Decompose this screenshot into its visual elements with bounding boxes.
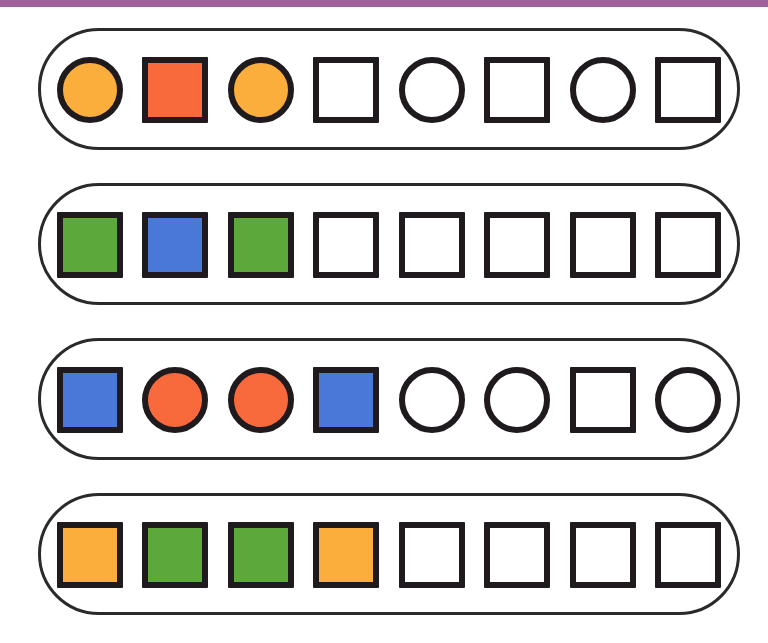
green-square-icon [228,522,294,588]
empty-square-icon [313,57,379,123]
empty-square-icon [655,212,721,278]
green-square-icon [57,212,123,278]
green-square-icon [142,522,208,588]
red-square-icon [142,57,208,123]
empty-square-icon [399,212,465,278]
orange-circle-icon [228,57,294,123]
empty-square-icon [570,367,636,433]
red-circle-icon [142,367,208,433]
empty-square-icon [570,522,636,588]
empty-square-icon [655,57,721,123]
empty-circle-icon [399,367,465,433]
empty-circle-icon [655,367,721,433]
empty-circle-icon [484,367,550,433]
pattern-row-2 [38,183,740,305]
empty-square-icon [655,522,721,588]
orange-square-icon [313,522,379,588]
empty-circle-icon [399,57,465,123]
pattern-row-1 [38,28,740,150]
empty-square-icon [313,212,379,278]
top-color-bar [0,0,768,7]
green-square-icon [228,212,294,278]
blue-square-icon [313,367,379,433]
blue-square-icon [142,212,208,278]
orange-circle-icon [57,57,123,123]
pattern-row-3 [38,338,740,460]
empty-square-icon [484,57,550,123]
empty-square-icon [484,212,550,278]
empty-square-icon [570,212,636,278]
empty-square-icon [399,522,465,588]
empty-circle-icon [570,57,636,123]
blue-square-icon [57,367,123,433]
orange-square-icon [57,522,123,588]
pattern-row-4 [38,493,740,615]
empty-square-icon [484,522,550,588]
red-circle-icon [228,367,294,433]
